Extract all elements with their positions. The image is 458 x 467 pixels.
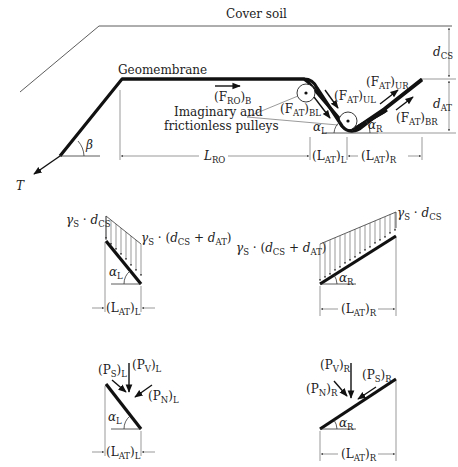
d-at-label: dAT (433, 97, 452, 113)
br-pn-label: (PN)R (306, 382, 338, 398)
mr-bottom-load-label: γS · (dCS + dAT) (236, 241, 327, 257)
mr-trench-wall (320, 236, 396, 284)
br-length-label: (LAT)R (341, 447, 377, 463)
bl-alpha-arc (124, 416, 130, 429)
ml-alpha-label: αL (109, 265, 123, 281)
geomembrane-label: Geomembrane (118, 63, 207, 77)
ml-length-label: (LAT)L (106, 301, 141, 317)
bl-pn-label: (PN)L (148, 389, 179, 405)
ml-bottom-load-label: γS · (dCS + dAT) (141, 231, 232, 247)
mr-top-load-label: γS · dCS (397, 206, 442, 222)
anchor-trench-diagram: Cover soil Geomembrane β T Imaginary and… (0, 0, 458, 467)
l-at-l-label: (LAT)L (312, 149, 347, 165)
mr-alpha-arc (334, 275, 337, 284)
f-ro-b-label: (FRO)B (214, 90, 251, 106)
pulley-left-center-icon (304, 91, 307, 94)
middle-right-load-diagram: γS · dCS γS · (dCS + dAT) αR (236, 206, 442, 318)
f-at-ur-label: (FAT)UR (366, 75, 409, 91)
pulley-right-center-icon (346, 119, 349, 122)
bl-alpha-label: αL (108, 410, 122, 426)
alpha-r-label: αR (368, 118, 383, 134)
beta-label: β (85, 138, 93, 152)
middle-left-load-diagram: γS · dCS γS · (dCS + dAT) αL (LAT)L (66, 213, 232, 317)
top-cross-section: Cover soil Geomembrane β T Imaginary and… (16, 7, 456, 193)
tension-arrow (34, 156, 60, 174)
mr-load-arrows (320, 212, 395, 281)
pulleys-label-2: frictionless pulleys (164, 119, 279, 133)
pulleys-label-1: Imaginary and (174, 105, 263, 119)
alpha-l-label: αL (313, 120, 327, 136)
bottom-right-force-diagram: (PV)R (PN)R (PS)R αR (LAT)R (306, 358, 396, 463)
f-at-ul-label: (FAT)UL (334, 89, 376, 105)
br-trench-wall (320, 379, 396, 429)
br-pv-label: (PV)R (320, 358, 351, 374)
cover-soil-label: Cover soil (226, 7, 287, 21)
beta-arc (78, 141, 84, 156)
l-at-r-label: (LAT)R (361, 149, 397, 165)
br-alpha-arc (334, 420, 337, 429)
ml-top-load-label: γS · dCS (66, 213, 111, 229)
mr-load-envelope (320, 212, 396, 244)
mr-length-label: (LAT)R (341, 302, 377, 318)
bl-ps-arrow (112, 380, 126, 392)
br-ps-label: (PS)R (362, 368, 392, 384)
bl-ps-label: (PS)L (98, 363, 127, 379)
bl-length-label: (LAT)L (106, 445, 141, 461)
mr-alpha-label: αR (339, 271, 354, 287)
ml-alpha-arc (124, 271, 130, 284)
f-at-bl-label: (FAT)BL (280, 102, 321, 118)
br-alpha-label: αR (339, 416, 354, 432)
f-at-br-label: (FAT)BR (396, 111, 438, 127)
l-ro-label: LRO (203, 149, 225, 165)
bottom-left-force-diagram: (PS)L (PV)L (PN)L αL (LAT)L (92, 358, 179, 461)
bl-pv-label: (PV)L (132, 358, 162, 374)
tension-label: T (16, 179, 25, 193)
